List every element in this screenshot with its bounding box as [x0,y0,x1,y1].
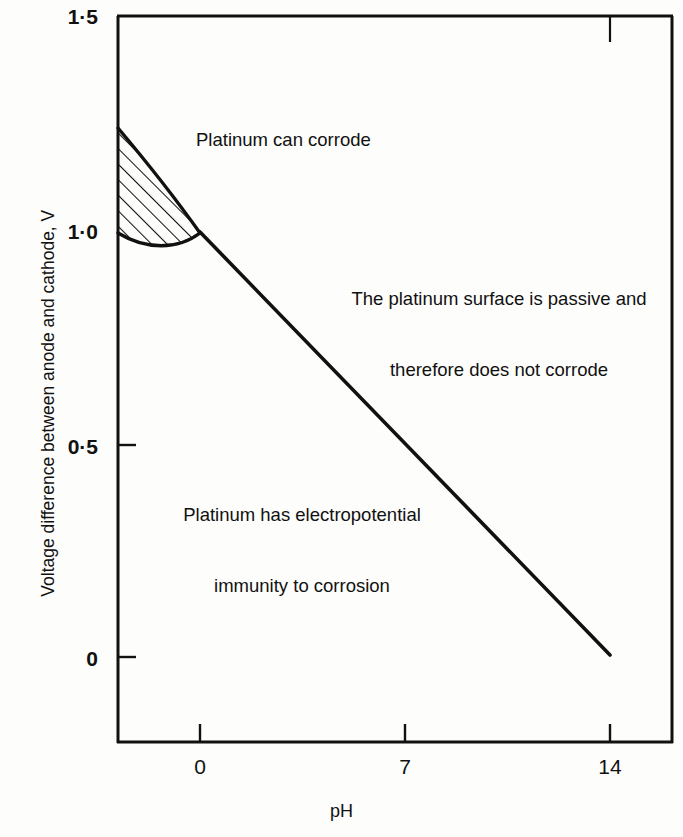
annotation-platinum-passive: The platinum surface is passive and ther… [334,240,664,429]
x-tick-label-14: 14 [580,754,640,781]
y-axis-ticks [118,230,136,657]
annotation-platinum-can-corrode: Platinum can corrode [196,128,371,152]
x-tick-label-7: 7 [375,754,435,781]
y-axis-title: Voltage difference between anode and cat… [37,143,59,663]
y-tick-label-1-5: 1·5 [28,4,98,31]
annotation-immunity-line-1: Platinum has electropotential [152,503,452,527]
x-tick-label-0: 0 [170,754,230,781]
annotation-immunity-line-2: immunity to corrosion [152,574,452,598]
annotation-passive-line-2: therefore does not corrode [334,358,664,382]
annotation-platinum-immunity: Platinum has electropotential immunity t… [152,456,452,645]
annotation-passive-line-1: The platinum surface is passive and [334,287,664,311]
x-axis-title: pH [0,800,683,823]
chart-page: 1·5 1·0 0·5 0 0 7 14 Voltage difference … [0,0,683,837]
